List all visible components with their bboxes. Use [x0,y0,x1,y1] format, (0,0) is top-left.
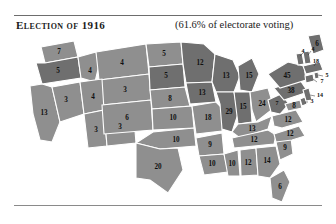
electoral-votes-nd: 5 [162,50,166,58]
electoral-votes-la: 10 [208,160,216,168]
electoral-votes-me: 6 [315,40,319,48]
electoral-votes-ia: 13 [198,89,206,97]
electoral-votes-sd: 5 [164,72,168,80]
electoral-votes-wa: 7 [57,48,61,56]
electoral-votes-id: 4 [88,67,92,75]
electoral-votes-ne: 8 [168,95,172,103]
electoral-votes-mn: 12 [196,59,204,67]
electoral-votes-tn: 12 [250,136,258,144]
electoral-votes-nc: 12 [286,130,294,138]
electoral-votes-mo: 18 [204,114,212,122]
footer-rule-bottom [14,205,322,206]
electoral-votes-wv: 7 [276,100,279,106]
electoral-votes-ri: 5 [326,72,329,78]
electoral-votes-nh: 4 [312,46,315,52]
turnout-note: (61.6% of electorate voting) [175,19,293,30]
electoral-votes-or: 5 [56,67,60,75]
map-svg: 7513344343365581010201213189101329151524… [0,30,336,202]
header-rule-top [14,15,322,16]
electoral-votes-nj: 14 [317,92,323,98]
electoral-votes-ks: 10 [169,114,177,122]
electoral-votes-ct: 7 [321,78,324,84]
electoral-votes-ma: 18 [313,58,319,64]
electoral-votes-ca: 13 [40,109,48,117]
electoral-votes-wi: 13 [222,72,230,80]
us-electoral-map: 7513344343365581010201213189101329151524… [0,30,336,202]
state-vermont [296,53,304,65]
electoral-votes-tx: 20 [154,163,162,171]
electoral-votes-nv: 3 [64,96,68,104]
electoral-votes-sc: 9 [283,144,287,152]
electoral-votes-al: 12 [244,159,252,167]
electoral-votes-mt: 4 [120,59,124,67]
electoral-votes-ga: 14 [263,157,271,165]
electoral-votes-pa: 38 [287,87,295,95]
electoral-votes-ok: 10 [172,136,180,144]
electoral-votes-mi: 15 [245,72,253,80]
electoral-votes-ut: 4 [91,93,95,101]
electoral-votes-fl: 6 [278,183,282,191]
electoral-votes-wy: 3 [123,86,127,94]
state-rhode-island [314,72,319,79]
electoral-votes-md: 8 [292,102,296,110]
electoral-votes-in: 15 [239,103,247,111]
electoral-votes-nm: 3 [118,123,122,131]
electoral-votes-ky: 13 [248,125,256,133]
electoral-votes-va: 12 [284,116,292,124]
electoral-votes-az: 3 [94,126,98,134]
electoral-votes-de: 3 [311,98,314,104]
electoral-votes-ms: 10 [228,160,236,168]
electoral-votes-ny: 45 [283,72,291,80]
election-map-figure: Election of 1916 (61.6% of electorate vo… [0,0,336,224]
electoral-votes-oh: 24 [258,100,266,108]
state-connecticut [305,74,314,83]
electoral-votes-vt: 4 [302,48,305,54]
electoral-votes-ar: 9 [208,141,212,149]
electoral-votes-il: 29 [225,108,233,116]
electoral-votes-co: 6 [125,114,129,122]
